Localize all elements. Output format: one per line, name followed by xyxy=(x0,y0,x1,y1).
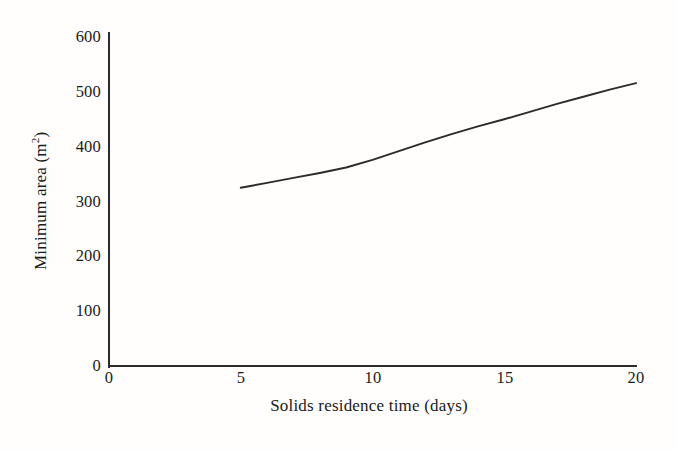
y-axis-label-superscript: 2 xyxy=(29,138,41,144)
data-series-line xyxy=(0,0,678,450)
y-axis-label-suffix: ) xyxy=(31,132,50,138)
x-axis-label-text: Solids residence time (days) xyxy=(210,396,468,415)
chart-figure: 600 500 400 300 200 100 0 0 5 10 15 20 S… xyxy=(0,0,678,450)
y-axis-label-prefix: Minimum area (m xyxy=(31,143,50,270)
y-axis-label: Minimum area (m2) xyxy=(29,51,51,351)
x-axis-label: Solids residence time (days) xyxy=(0,396,678,416)
